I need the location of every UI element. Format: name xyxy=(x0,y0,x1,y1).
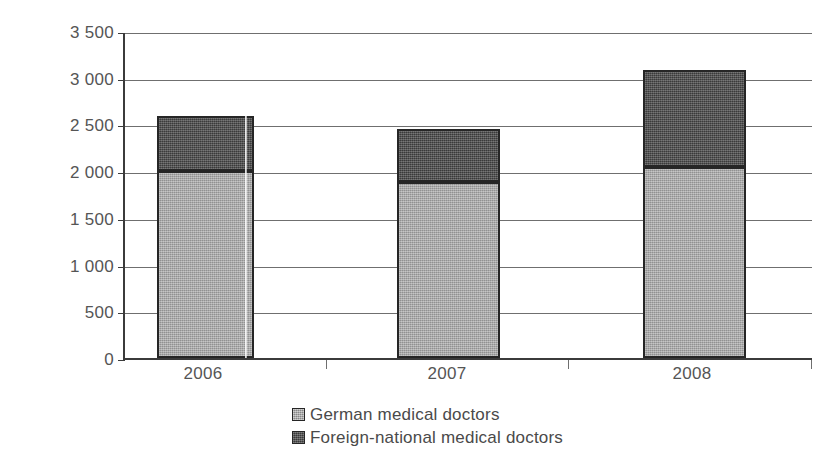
legend-label-foreign-national: Foreign-national medical doctors xyxy=(310,428,563,448)
y-axis-tick xyxy=(118,80,125,81)
y-axis-tick-label: 500 xyxy=(8,303,114,323)
bar-group-2006 xyxy=(157,116,254,358)
x-axis-category-label-2006: 2006 xyxy=(133,364,273,384)
bar-group-2007 xyxy=(397,129,500,358)
y-axis-tick-label: 3 000 xyxy=(8,70,114,90)
bar-group-2008 xyxy=(643,70,746,358)
plot-area xyxy=(123,33,812,360)
legend-item-german: German medical doctors xyxy=(292,403,752,426)
y-axis-tick xyxy=(118,267,125,268)
chart-legend: German medical doctors Foreign-national … xyxy=(292,403,752,449)
bar-segment-foreign-2008 xyxy=(643,70,746,168)
y-axis-tick-label: 2 000 xyxy=(8,163,114,183)
bar-segment-foreign-2006 xyxy=(157,116,254,171)
legend-item-foreign-national: Foreign-national medical doctors xyxy=(292,426,752,449)
y-axis-tick xyxy=(118,173,125,174)
x-axis-tick xyxy=(811,360,812,369)
y-axis-tick-label: 0 xyxy=(8,350,114,370)
y-axis-tick-label: 1 000 xyxy=(8,257,114,277)
legend-label-german: German medical doctors xyxy=(310,405,500,425)
bar-segment-foreign-2007 xyxy=(397,129,500,182)
y-axis-tick-label: 1 500 xyxy=(8,210,114,230)
y-axis-tick xyxy=(118,313,125,314)
y-axis-tick-label: 2 500 xyxy=(8,116,114,136)
x-axis-category-label-2008: 2008 xyxy=(622,364,762,384)
y-axis-tick xyxy=(118,220,125,221)
bar-segment-german-2008 xyxy=(643,167,746,358)
x-axis-tick xyxy=(568,360,569,369)
bar-segment-german-2006 xyxy=(157,171,254,358)
y-axis-tick-label: 3 500 xyxy=(8,23,114,43)
bar-segment-german-2007 xyxy=(397,182,500,358)
x-axis-category-label-2007: 2007 xyxy=(377,364,517,384)
x-axis-tick xyxy=(326,360,327,369)
stacked-bar-chart: 3 500 3 000 2 500 2 000 1 500 1 000 500 … xyxy=(0,0,822,466)
legend-swatch-dark-gray-icon xyxy=(292,431,305,444)
y-axis-tick xyxy=(118,360,125,361)
y-axis-tick xyxy=(118,33,125,34)
y-axis-tick xyxy=(118,126,125,127)
legend-swatch-light-gray-icon xyxy=(292,408,305,421)
gridline-3500 xyxy=(125,33,812,34)
